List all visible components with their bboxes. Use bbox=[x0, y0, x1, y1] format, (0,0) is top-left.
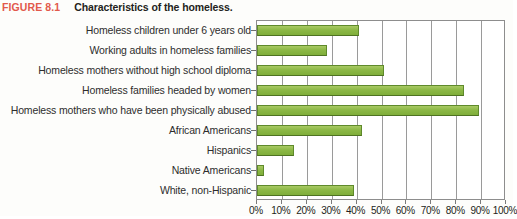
x-axis-tick-label: 0% bbox=[249, 205, 263, 216]
bar bbox=[257, 145, 294, 156]
category-label: Hispanics bbox=[207, 140, 251, 160]
x-axis-tick-label: 10% bbox=[271, 205, 290, 216]
bar-row: Hispanics bbox=[0, 140, 513, 160]
x-axis-tick-label: 100% bbox=[493, 205, 517, 216]
bar-row: Working adults in homeless families bbox=[0, 40, 513, 60]
category-label: Homeless mothers without high school dip… bbox=[38, 60, 251, 80]
bar bbox=[257, 65, 384, 76]
bar-rows: Homeless children under 6 years oldWorki… bbox=[0, 20, 513, 200]
bar-row: Homeless mothers who have been physicall… bbox=[0, 100, 513, 120]
category-label: Working adults in homeless families bbox=[90, 40, 251, 60]
y-axis-tick bbox=[251, 150, 256, 151]
y-axis-tick bbox=[251, 170, 256, 171]
x-axis-tick bbox=[455, 200, 456, 204]
bar-row: Homeless children under 6 years old bbox=[0, 20, 513, 40]
bar bbox=[257, 165, 264, 176]
category-label: Homeless mothers who have been physicall… bbox=[11, 100, 251, 120]
category-label: Homeless children under 6 years old bbox=[86, 20, 251, 40]
bar-row: Native Americans bbox=[0, 160, 513, 180]
bar-row: Homeless families headed by women bbox=[0, 80, 513, 100]
x-axis-tick-label: 90% bbox=[471, 205, 490, 216]
x-axis-tick-label: 20% bbox=[296, 205, 315, 216]
y-axis-tick bbox=[251, 190, 256, 191]
category-label: Homeless families headed by women bbox=[82, 80, 251, 100]
y-axis-tick bbox=[251, 70, 256, 71]
x-axis-tick bbox=[331, 200, 332, 204]
bar bbox=[257, 25, 359, 36]
bar bbox=[257, 125, 362, 136]
x-axis-tick bbox=[480, 200, 481, 204]
category-label: African Americans bbox=[169, 120, 251, 140]
x-axis-tick-label: 70% bbox=[421, 205, 440, 216]
y-axis-tick bbox=[251, 30, 256, 31]
x-axis-tick bbox=[356, 200, 357, 204]
x-axis-tick bbox=[381, 200, 382, 204]
figure-number: FIGURE 8.1 bbox=[2, 1, 60, 13]
x-axis-tick-label: 60% bbox=[396, 205, 415, 216]
category-label: White, non-Hispanic bbox=[160, 180, 251, 200]
bar bbox=[257, 185, 354, 196]
bar bbox=[257, 85, 464, 96]
figure-title: Characteristics of the homeless. bbox=[74, 1, 232, 13]
y-axis-tick bbox=[251, 50, 256, 51]
bar-row: African Americans bbox=[0, 120, 513, 140]
x-axis-tick-label: 50% bbox=[371, 205, 390, 216]
figure-caption: FIGURE 8.1 Characteristics of the homele… bbox=[2, 0, 233, 14]
category-label: Native Americans bbox=[172, 160, 251, 180]
x-axis-tick-label: 40% bbox=[346, 205, 365, 216]
bar-row: Homeless mothers without high school dip… bbox=[0, 60, 513, 80]
x-axis-tick-label: 30% bbox=[321, 205, 340, 216]
x-axis-tick bbox=[505, 200, 506, 204]
y-axis-tick bbox=[251, 110, 256, 111]
bar-chart: Homeless children under 6 years oldWorki… bbox=[0, 17, 513, 216]
y-axis-tick bbox=[251, 90, 256, 91]
x-axis-tick bbox=[256, 200, 257, 204]
bar bbox=[257, 105, 479, 116]
y-axis-tick bbox=[251, 130, 256, 131]
x-axis-tick-labels: 0%10%20%30%40%50%60%70%80%90%100% bbox=[0, 205, 513, 219]
x-axis-tick bbox=[281, 200, 282, 204]
bar bbox=[257, 45, 327, 56]
bar-row: White, non-Hispanic bbox=[0, 180, 513, 200]
x-axis-tick bbox=[405, 200, 406, 204]
x-axis-tick-label: 80% bbox=[446, 205, 465, 216]
x-axis-tick bbox=[430, 200, 431, 204]
x-axis-tick bbox=[306, 200, 307, 204]
